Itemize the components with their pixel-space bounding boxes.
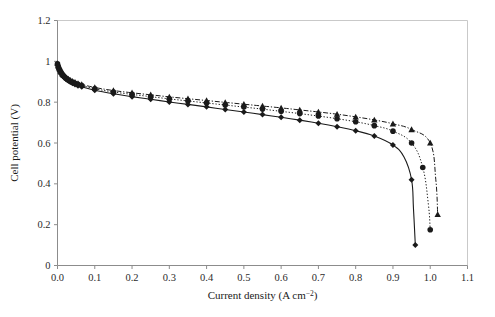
data-point-circle: [372, 123, 378, 129]
x-tick-label: 0.8: [349, 272, 362, 283]
data-point-circle: [427, 227, 433, 233]
x-tick-label: 0.6: [275, 272, 288, 283]
y-tick-label: 0.4: [37, 178, 51, 189]
x-tick-label: 0.5: [237, 272, 250, 283]
chart-background: [0, 0, 495, 317]
data-point-circle: [390, 128, 396, 134]
chart-figure: 0.00.10.20.30.40.50.60.70.80.91.01.1 00.…: [0, 0, 495, 317]
data-point-circle: [353, 119, 359, 125]
y-axis-title: Cell potential (V): [8, 104, 21, 182]
y-tick-label: 1.2: [37, 15, 50, 26]
y-tick-label: 0.8: [37, 97, 50, 108]
x-tick-label: 0.2: [125, 272, 138, 283]
x-axis-title: Current density (A cm−2): [208, 289, 318, 303]
x-tick-label: 0.7: [312, 272, 325, 283]
data-point-circle: [409, 140, 415, 146]
y-tick-label: 0: [45, 260, 50, 271]
y-tick-label: 1: [45, 56, 50, 67]
x-tick-label: 1.1: [461, 272, 474, 283]
x-tick-label: 0.9: [386, 272, 399, 283]
data-point-circle: [420, 165, 426, 171]
cell-polarization-chart: 0.00.10.20.30.40.50.60.70.80.91.01.1 00.…: [0, 0, 495, 317]
x-tick-label: 0.0: [51, 272, 64, 283]
x-tick-label: 0.4: [200, 272, 214, 283]
x-tick-label: 0.3: [163, 272, 176, 283]
y-tick-label: 0.2: [37, 219, 50, 230]
x-tick-label: 0.1: [88, 272, 101, 283]
x-tick-label: 1.0: [424, 272, 437, 283]
y-tick-label: 0.6: [37, 138, 50, 149]
